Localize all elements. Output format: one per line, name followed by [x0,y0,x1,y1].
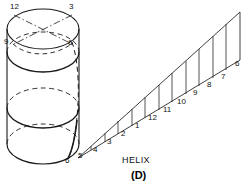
helix-figure: 12 3 9 6 6 5 4 3 2 1 12 11 10 9 8 7 6 HE… [0,0,250,187]
station-label-7: 7 [221,73,225,81]
station-label-8: 8 [207,81,211,89]
middle-ellipse-front-arc [7,108,79,128]
station-label-5: 5 [78,152,82,160]
cylinder-label-6-bottom: 6 [65,157,69,165]
cylinder-label-9: 9 [4,38,8,46]
cylinder-label-3: 3 [69,3,73,11]
cylinder-group [7,9,79,164]
panel-caption: (D) [131,169,146,181]
development-group [78,12,240,158]
middle-ellipse-back-arc [7,88,79,108]
station-label-10: 10 [177,98,186,106]
station-label-12: 12 [148,114,157,122]
station-label-9: 9 [193,89,197,97]
station-label-4: 4 [93,146,97,154]
top-ellipse-center-axes [14,15,72,44]
cylinder-label-6-top: 6 [68,39,72,47]
bottom-ellipse-back-arc [7,124,79,144]
station-label-6: 6 [235,60,239,68]
station-label-1: 1 [135,122,139,130]
second-ellipse-front-arc [7,52,79,72]
cylinder-label-12: 12 [10,3,19,11]
station-label-2: 2 [121,130,125,138]
helix-caption: HELIX [122,155,150,165]
station-label-3: 3 [107,138,111,146]
station-label-11: 11 [163,106,171,114]
